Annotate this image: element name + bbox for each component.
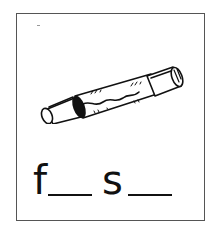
letter-s: s: [102, 160, 123, 200]
flashcard: f s: [16, 13, 205, 221]
word-prompt: f s: [33, 150, 203, 200]
blank-line: [48, 194, 92, 196]
speck: [37, 25, 40, 26]
fuse-icon: [39, 66, 184, 124]
blank-line: [128, 194, 172, 196]
letter-f: f: [33, 160, 47, 200]
